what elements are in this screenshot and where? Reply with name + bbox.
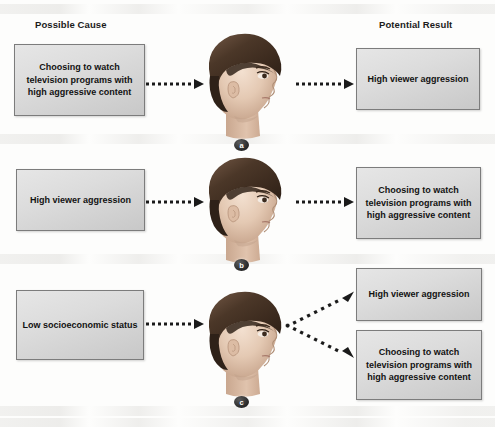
column-header-potential-result: Potential Result xyxy=(379,19,452,30)
row-a-result-box: High viewer aggression xyxy=(356,48,480,110)
cause-and-effect-diagram: Possible Cause Potential Result Choosing… xyxy=(0,0,495,427)
row-b-result-box: Choosing to watch television programs wi… xyxy=(356,167,481,239)
row-b-cause-box: High viewer aggression xyxy=(16,169,145,231)
child-head-profile-icon xyxy=(190,24,294,142)
column-header-possible-cause: Possible Cause xyxy=(35,19,107,30)
row-c-result-box-bottom: Choosing to watch television programs wi… xyxy=(356,330,482,400)
row-a-arrow-head-to-result xyxy=(296,78,358,92)
row-c-arrow-head-to-result-bottom xyxy=(286,320,362,368)
row-label-c: c xyxy=(234,396,249,408)
page-bleed-artifact xyxy=(0,406,495,416)
row-c-cause-box: Low socioeconomic status xyxy=(16,290,144,360)
child-head-profile-icon xyxy=(190,148,294,266)
row-c-result-box-top: High viewer aggression xyxy=(356,268,482,321)
page-bleed-artifact xyxy=(0,4,495,14)
row-label-b: b xyxy=(234,259,249,271)
row-b-arrow-head-to-result xyxy=(296,196,358,210)
row-c-arrow-head-to-result-top xyxy=(286,288,362,332)
page-bleed-artifact xyxy=(0,418,495,427)
row-a-cause-box: Choosing to watch television programs wi… xyxy=(14,44,145,116)
child-head-profile-icon xyxy=(190,282,294,400)
